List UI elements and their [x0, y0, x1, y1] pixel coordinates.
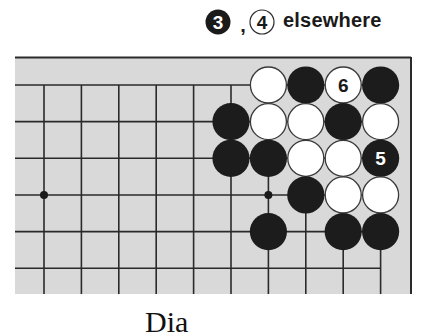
black-stone — [287, 176, 324, 213]
white-stone-icon — [250, 104, 286, 140]
white-stone — [250, 104, 286, 140]
white-stone — [325, 177, 361, 213]
black-stone — [362, 66, 399, 103]
star-point-icon — [40, 191, 48, 199]
black-stone-icon — [287, 176, 324, 213]
black-stone — [212, 140, 249, 177]
white-stone-icon — [363, 177, 399, 213]
stone-move-number: 5 — [375, 148, 386, 169]
black-stone — [325, 213, 362, 250]
black-stone — [212, 103, 249, 140]
black-stone — [250, 140, 287, 177]
black-stone-icon — [212, 140, 249, 177]
black-stone: 5 — [362, 140, 399, 177]
black-stone-icon — [325, 213, 362, 250]
black-stone — [287, 66, 324, 103]
black-stone-icon — [287, 66, 324, 103]
black-stone-icon — [250, 213, 287, 250]
black-stone-icon — [250, 140, 287, 177]
white-stone-icon — [325, 177, 361, 213]
white-stone — [288, 104, 324, 140]
black-stone-icon — [362, 66, 399, 103]
star-point-icon — [264, 191, 272, 199]
black-stone — [325, 103, 362, 140]
stone-move-number: 6 — [338, 75, 349, 96]
white-stone-icon — [288, 140, 324, 176]
black-stone — [250, 213, 287, 250]
white-stone — [288, 140, 324, 176]
white-stone-icon — [325, 140, 361, 176]
black-stone-icon — [325, 103, 362, 140]
black-stone — [362, 213, 399, 250]
white-stone — [363, 177, 399, 213]
white-stone-icon — [250, 67, 286, 103]
black-stone-icon — [212, 103, 249, 140]
white-stone-icon — [288, 104, 324, 140]
diagram-caption: Dia — [145, 305, 188, 336]
go-board: 65 — [0, 0, 425, 300]
white-stone-icon — [363, 104, 399, 140]
white-stone: 6 — [325, 67, 361, 103]
white-stone — [250, 67, 286, 103]
black-stone-icon — [362, 213, 399, 250]
white-stone — [363, 104, 399, 140]
white-stone — [325, 140, 361, 176]
